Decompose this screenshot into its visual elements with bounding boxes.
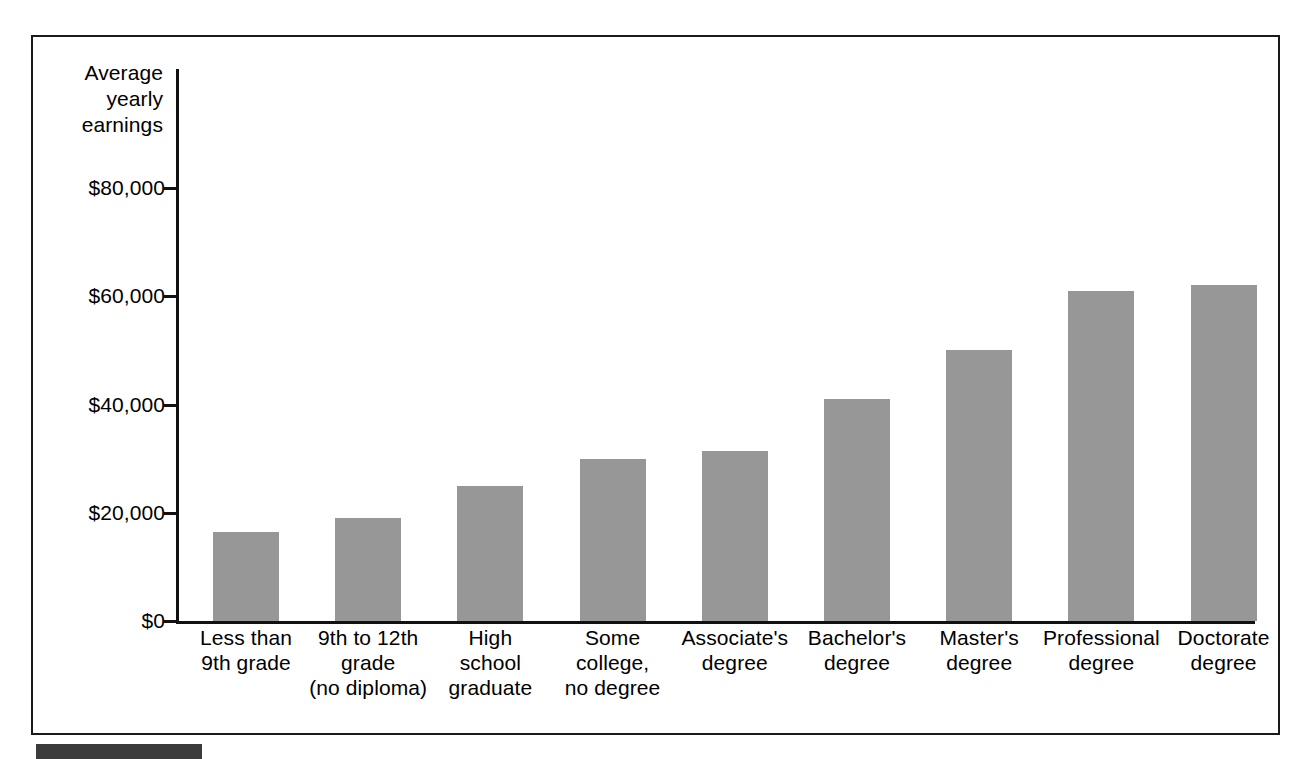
x-axis-label: Bachelor's degree [787,625,927,675]
x-axis-label: Some college, no degree [543,625,683,700]
caption-bar [36,744,202,759]
bar [213,532,279,621]
x-axis-label: Doctorate degree [1154,625,1294,675]
bar [824,399,890,621]
bars-layer [33,37,1278,621]
x-axis-labels: Less than 9th grade9th to 12th grade (no… [33,625,1278,725]
bar [457,486,523,621]
x-axis-label: Less than 9th grade [176,625,316,675]
x-axis-label: 9th to 12th grade (no diploma) [298,625,438,700]
bar [335,518,401,621]
plot-area: Average yearly earnings $0$20,000$40,000… [33,37,1278,733]
x-axis-label: Master's degree [909,625,1049,675]
bar [702,451,768,621]
x-axis-line [176,621,1255,624]
bar [580,459,646,621]
bar [946,350,1012,621]
x-axis-label: High school graduate [420,625,560,700]
x-axis-label: Professional degree [1031,625,1171,675]
chart-frame: Average yearly earnings $0$20,000$40,000… [31,35,1280,735]
bar [1068,291,1134,621]
bar [1191,285,1257,621]
x-axis-label: Associate's degree [665,625,805,675]
